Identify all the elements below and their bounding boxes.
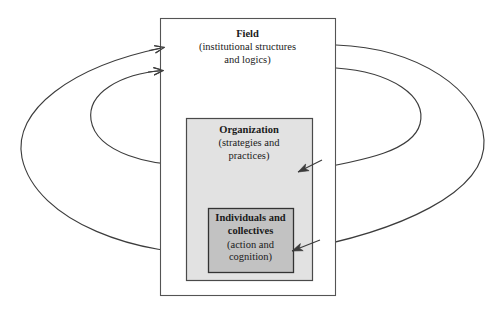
diagram-svg: [0, 0, 500, 312]
diagram-canvas: Field (institutional structures and logi…: [0, 0, 500, 312]
individuals-box: [209, 209, 294, 273]
